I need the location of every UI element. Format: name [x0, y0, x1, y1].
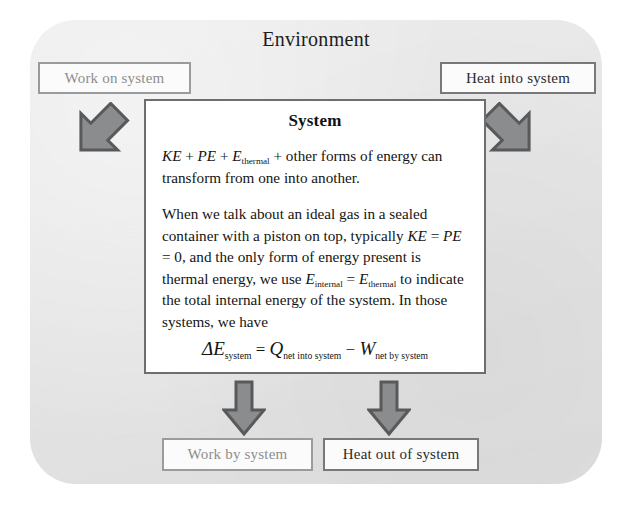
delta-symbol: Δ — [202, 338, 213, 359]
label-box-heat-out-of-system: Heat out of system — [323, 438, 479, 471]
internal-subscript: internal — [315, 279, 343, 289]
arrow-heat-into-system-icon — [478, 102, 542, 164]
arrow-work-out-of-system-icon — [222, 380, 266, 440]
arrow-work-into-system-icon — [68, 102, 132, 164]
energy-balance-equation: ΔEsystem = Qnet into system − Wnet by sy… — [162, 338, 468, 360]
thermal-energy-symbol: E — [232, 147, 241, 164]
potential-energy-symbol-2: PE — [443, 227, 462, 244]
equation-equals: = — [251, 340, 269, 359]
equation-work-subscript: net by system — [375, 350, 428, 361]
equation-heat-subscript: net into system — [283, 350, 341, 361]
plus-2: + — [216, 147, 232, 164]
equals-1: = — [427, 227, 443, 244]
kinetic-energy-symbol-2: KE — [407, 227, 426, 244]
system-title: System — [162, 111, 468, 131]
potential-energy-symbol: PE — [198, 147, 217, 164]
internal-energy-symbol: E — [305, 270, 314, 287]
environment-title: Environment — [30, 28, 602, 51]
label-box-heat-into-system-text: Heat into system — [466, 70, 570, 87]
equation-work-symbol: W — [359, 338, 375, 359]
label-box-work-by-system-text: Work by system — [188, 446, 288, 463]
equation-minus: − — [341, 340, 359, 359]
system-paragraph-1: KE + PE + Ethermal + other forms of ener… — [162, 145, 468, 188]
label-box-work-on-system: Work on system — [38, 62, 191, 94]
thermal-subscript: thermal — [242, 156, 270, 166]
equation-heat-symbol: Q — [270, 338, 284, 359]
label-box-work-by-system: Work by system — [162, 438, 313, 471]
kinetic-energy-symbol: KE — [162, 147, 181, 164]
plus-1: + — [181, 147, 197, 164]
equation-energy-symbol: E — [213, 338, 225, 359]
thermal-subscript-2: thermal — [368, 279, 396, 289]
thermal-energy-symbol-2: E — [359, 270, 368, 287]
system-paragraph-2: When we talk about an ideal gas in a sea… — [162, 203, 468, 332]
system-paragraph-2-lead: When we talk about an ideal gas in a sea… — [162, 205, 427, 244]
label-box-heat-into-system: Heat into system — [440, 62, 596, 94]
system-box: System KE + PE + Ethermal + other forms … — [144, 99, 486, 374]
label-box-work-on-system-text: Work on system — [65, 70, 165, 87]
environment-panel: Environment Work on system Heat into sys… — [30, 20, 602, 484]
equals-2: = — [343, 270, 359, 287]
label-box-heat-out-of-system-text: Heat out of system — [343, 446, 460, 463]
arrow-heat-out-of-system-icon — [367, 380, 411, 440]
equation-energy-subscript: system — [225, 350, 252, 361]
